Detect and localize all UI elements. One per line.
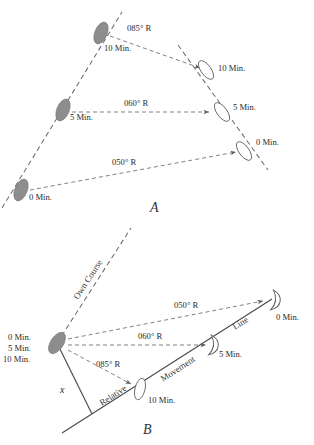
target-ship-time-label-10min-b: 10 Min. bbox=[148, 395, 175, 405]
bearing-line-050-b bbox=[68, 301, 263, 339]
own-ship-time-label-5min-b: 5 Min. bbox=[8, 343, 31, 353]
relative-movement-word-relative-b: Relative bbox=[98, 383, 129, 408]
bearing-label-085-b: 085° R bbox=[96, 359, 120, 369]
target-ship-time-label-0min-a: 0 Min. bbox=[256, 137, 279, 147]
panel-b: Own Course Relative Movement Line x 0 Mi… bbox=[3, 228, 299, 437]
bearing-label-085-a: 085° R bbox=[127, 23, 151, 33]
own-ship-time-label-0min-b: 0 Min. bbox=[8, 332, 31, 342]
target-ship-time-label-0min-b: 0 Min. bbox=[276, 312, 299, 322]
panel-letter-a: A bbox=[149, 200, 159, 215]
bearing-label-050-a: 050° R bbox=[112, 157, 136, 167]
target-ship-time-label-5min-b: 5 Min. bbox=[219, 349, 242, 359]
target-ship-symbol-10min-b bbox=[132, 377, 147, 401]
panel-letter-b: B bbox=[143, 422, 152, 437]
own-course-line-b bbox=[57, 228, 131, 343]
bearing-label-060-b: 060° R bbox=[138, 331, 162, 341]
target-ship-symbol-10min-a bbox=[195, 58, 216, 82]
target-ship-time-label-5min-a: 5 Min. bbox=[233, 102, 256, 112]
own-ship-time-label-5min-a: 5 Min. bbox=[70, 112, 93, 122]
own-ship-symbol-b bbox=[45, 329, 69, 356]
relative-movement-word-line-b: Line bbox=[231, 314, 250, 331]
relative-movement-word-movement-b: Movement bbox=[159, 354, 198, 384]
own-ship-time-label-10min-a: 10 Min. bbox=[104, 43, 131, 53]
figure-svg: 085° R 060° R 050° R 10 Min. 5 Min. 0 Mi… bbox=[0, 0, 314, 445]
bearing-label-050-b: 050° R bbox=[174, 300, 198, 310]
target-ship-symbol-0min-a bbox=[233, 139, 254, 163]
target-ship-time-label-10min-a: 10 Min. bbox=[218, 63, 245, 73]
angle-label-x-b: x bbox=[59, 384, 65, 395]
relative-motion-figure: 085° R 060° R 050° R 10 Min. 5 Min. 0 Mi… bbox=[0, 0, 314, 445]
own-ship-time-label-10min-b: 10 Min. bbox=[3, 354, 30, 364]
target-ship-symbol-5min-a bbox=[211, 100, 232, 124]
own-ship-time-label-0min-a: 0 Min. bbox=[29, 192, 52, 202]
bearing-label-060-a: 060° R bbox=[124, 98, 148, 108]
panel-a: 085° R 060° R 050° R 10 Min. 5 Min. 0 Mi… bbox=[2, 12, 279, 215]
own-course-label-b: Own Course bbox=[71, 258, 104, 301]
target-ship-symbol-0min-b bbox=[271, 290, 282, 311]
